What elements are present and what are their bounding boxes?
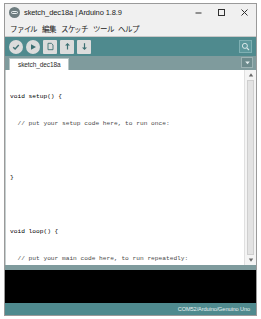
window-controls (187, 4, 256, 21)
scroll-up-arrow-icon[interactable] (245, 70, 256, 80)
editor-area: void setup() { // put your setup code he… (5, 70, 256, 265)
maximize-button[interactable] (210, 4, 233, 21)
tab-menu-button[interactable] (241, 57, 253, 68)
toolbar (5, 37, 256, 56)
minimize-button[interactable] (187, 4, 210, 21)
code-line: } (10, 173, 244, 182)
status-bar: COM52/Arduino/Genuino Uno (5, 303, 256, 315)
vertical-scrollbar[interactable] (244, 70, 256, 265)
serial-monitor-button[interactable] (239, 40, 252, 53)
new-button[interactable] (43, 40, 57, 54)
open-button[interactable] (60, 40, 74, 54)
close-button[interactable] (233, 4, 256, 21)
code-line: void loop() { (10, 227, 244, 236)
menu-bar: ファイル 編集 スケッチ ツール ヘルプ (5, 21, 256, 37)
verify-button[interactable] (9, 40, 23, 54)
code-editor[interactable]: void setup() { // put your setup code he… (6, 70, 244, 265)
scrollbar-track[interactable] (245, 80, 256, 255)
board-port-status: COM52/Arduino/Genuino Uno (178, 306, 250, 312)
sketch-tab[interactable]: sketch_dec18a (9, 58, 69, 70)
menu-help[interactable]: ヘルプ (118, 23, 138, 34)
save-button[interactable] (77, 40, 91, 54)
code-line: // put your setup code here, to run once… (10, 119, 244, 128)
code-line: void setup() { (10, 92, 244, 101)
menu-file[interactable]: ファイル (10, 23, 37, 34)
menu-sketch[interactable]: スケッチ (61, 23, 88, 34)
code-line: // put your main code here, to run repea… (10, 254, 244, 263)
tab-bar: sketch_dec18a (5, 56, 256, 70)
code-line (10, 146, 244, 155)
console-output (5, 270, 256, 303)
title-bar: sketch_dec18a | Arduino 1.8.9 (5, 4, 256, 21)
code-line (10, 200, 244, 209)
menu-edit[interactable]: 編集 (42, 23, 56, 34)
scrollbar-thumb[interactable] (247, 80, 254, 255)
arduino-logo-icon (9, 7, 20, 18)
scroll-down-arrow-icon[interactable] (245, 255, 256, 265)
menu-tools[interactable]: ツール (93, 23, 113, 34)
upload-button[interactable] (26, 40, 40, 54)
arduino-ide-window: sketch_dec18a | Arduino 1.8.9 ファイル 編集 スケ… (4, 3, 257, 316)
window-title: sketch_dec18a | Arduino 1.8.9 (24, 8, 122, 17)
